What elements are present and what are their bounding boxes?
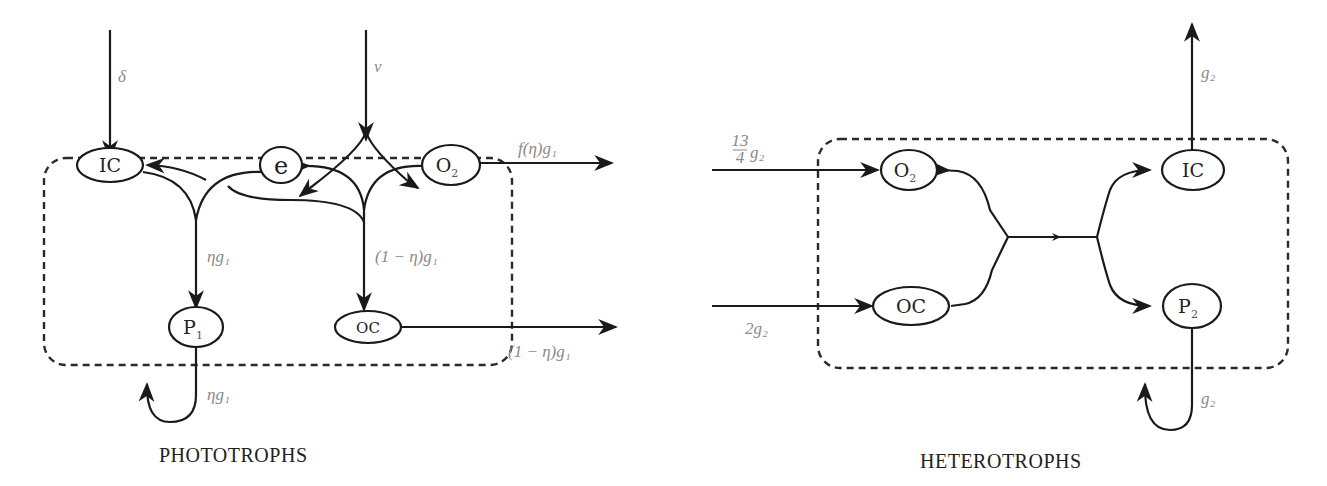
oc-input-label: 2g₂ <box>745 319 768 338</box>
phototrophs-panel: δ ν ηg₁ (1 − η)g₁ f(η)g₁ (1 − η)g₁ ηg₁ <box>44 30 616 466</box>
ic-e-to-oc-curve <box>228 186 364 222</box>
flux-diagram: δ ν ηg₁ (1 − η)g₁ f(η)g₁ (1 − η)g₁ ηg₁ <box>0 0 1327 486</box>
delta-label: δ <box>118 67 127 86</box>
o2-to-junction-curve <box>941 170 1008 237</box>
o2-input-label: 13 4 g₂ <box>732 131 765 167</box>
heterotrophs-caption: HETEROTROPHS <box>920 450 1082 472</box>
node-oc-phototroph: OC <box>335 311 401 343</box>
node-o2-heterotroph: O2 <box>881 150 937 190</box>
heterotrophs-panel: 13 4 g₂ 2g₂ g₂ g₂ O2 OC <box>712 24 1288 472</box>
f-eta-g1-label: f(η)g₁ <box>518 139 557 158</box>
nu-label: ν <box>374 57 382 76</box>
ic-output-label: g₂ <box>1201 63 1216 82</box>
svg-text:IC: IC <box>1182 159 1204 181</box>
node-p2: P2 <box>1163 284 1221 328</box>
node-o2-phototroph: O2 <box>422 145 480 185</box>
p2-loop-label: g₂ <box>1201 389 1216 408</box>
nu-to-o2-arrow <box>366 132 418 188</box>
svg-text:e: e <box>274 152 288 180</box>
p1-loop-label: ηg₁ <box>207 385 230 404</box>
oc-output-label: (1 − η)g₁ <box>508 342 571 361</box>
o2-to-oc-curve <box>364 166 423 210</box>
p1-loop-arrow <box>147 344 196 422</box>
ic-to-p1-curve <box>143 172 196 220</box>
junction-to-p2-curve <box>1097 237 1150 306</box>
junction-to-ic-curve <box>1097 170 1150 237</box>
svg-text:g₂: g₂ <box>750 143 765 162</box>
p2-loop-arrow <box>1145 327 1192 430</box>
node-ic-heterotroph: IC <box>1162 150 1224 190</box>
svg-text:OC: OC <box>356 319 380 337</box>
svg-text:OC: OC <box>896 295 926 317</box>
phototrophs-compartment-box <box>44 158 512 365</box>
node-p1: P1 <box>169 307 223 347</box>
eta-g1-label: ηg₁ <box>207 247 230 266</box>
svg-text:4: 4 <box>736 148 745 167</box>
oc-to-junction-curve <box>951 237 1008 306</box>
node-e: e <box>260 147 302 183</box>
return-to-ic-arrow <box>147 165 206 180</box>
phototrophs-caption: PHOTOTROPHS <box>159 444 308 466</box>
node-oc-heterotroph: OC <box>873 287 949 325</box>
node-ic-phototroph: IC <box>77 148 143 182</box>
one-minus-eta-g1-label: (1 − η)g₁ <box>375 247 438 266</box>
svg-text:IC: IC <box>99 154 121 176</box>
